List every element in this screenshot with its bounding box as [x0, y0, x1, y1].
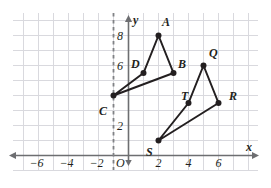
x-tick-label-6: 6 — [216, 157, 222, 169]
vertex-dot-Q — [201, 63, 207, 69]
point-label-R: R — [229, 90, 237, 102]
x-tick-label--2: −2 — [90, 157, 104, 169]
y-tick-label-8: 8 — [117, 30, 123, 42]
origin-label: O — [116, 157, 125, 169]
x-axis-label: x — [246, 141, 252, 153]
point-label-Q: Q — [209, 47, 218, 59]
x-tick-label-2: 2 — [156, 157, 162, 169]
x-tick-label--4: −4 — [60, 157, 74, 169]
vertex-dots — [111, 33, 222, 144]
point-label-T: T — [181, 90, 188, 102]
point-label-A: A — [162, 16, 170, 28]
vertex-dot-C — [111, 93, 117, 99]
vertex-dot-B — [171, 70, 177, 76]
point-label-B: B — [178, 58, 186, 70]
x-tick-label--6: −6 — [30, 157, 44, 169]
x-tick-label-4: 4 — [186, 157, 192, 169]
y-tick-label-2: 2 — [117, 120, 123, 132]
y-axis-label: y — [133, 14, 138, 26]
vertex-dot-S — [156, 138, 162, 144]
grid-lines — [13, 13, 258, 171]
point-label-S: S — [146, 146, 153, 158]
coordinate-plane-figure: −6−4−2246862 A B C D Q R S T x y O — [0, 0, 271, 188]
vertex-dot-D — [141, 70, 147, 76]
vertex-dot-A — [156, 33, 162, 39]
point-label-D: D — [131, 58, 140, 70]
y-tick-label-6: 6 — [117, 60, 123, 72]
point-label-C: C — [99, 105, 107, 117]
vertex-dot-R — [216, 100, 222, 106]
axes-lines — [9, 15, 259, 166]
